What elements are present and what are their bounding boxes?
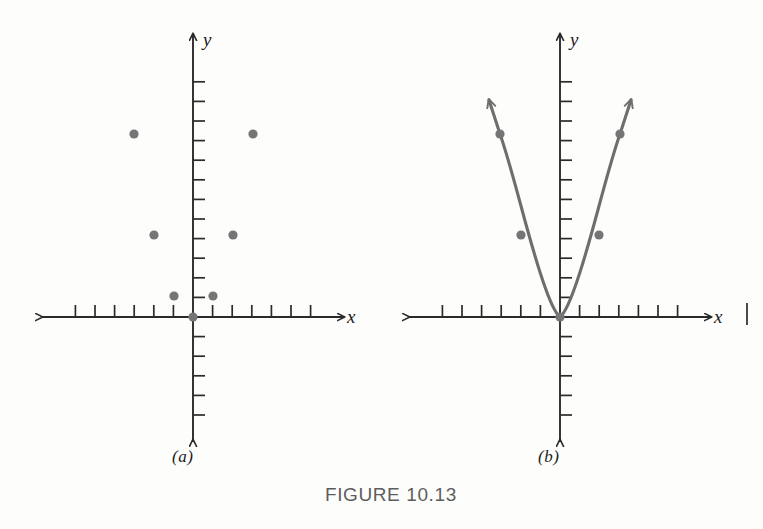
panel-b: x <box>409 29 723 440</box>
panel-b-y-axis: y <box>560 29 579 440</box>
data-point <box>495 129 504 138</box>
y-axis-label-a: y <box>201 29 212 50</box>
panel-a-x-axis: x <box>42 305 356 327</box>
data-point <box>149 230 158 239</box>
panel-a: x <box>42 29 356 440</box>
panel-label-a: (a) <box>172 447 193 467</box>
data-point <box>615 129 624 138</box>
data-point <box>594 230 603 239</box>
panel-a-y-axis: y <box>193 29 212 440</box>
y-axis-label-b: y <box>568 29 579 50</box>
data-point <box>228 230 237 239</box>
x-axis-label-a: x <box>346 306 356 327</box>
data-point <box>129 129 138 138</box>
panel-label-b: (b) <box>538 447 559 467</box>
data-point <box>248 129 257 138</box>
figure-caption: FIGURE 10.13 <box>325 484 457 506</box>
data-point <box>188 312 197 321</box>
parabola-right-arrow <box>620 100 631 134</box>
data-point <box>516 230 525 239</box>
data-point <box>169 291 178 300</box>
y-axis-ticks <box>193 82 205 415</box>
parabola-right-branch <box>560 134 620 317</box>
parabola-left-branch <box>500 134 560 317</box>
y-axis-ticks <box>560 82 572 415</box>
figure-canvas: x <box>0 0 763 529</box>
figure-10-13: x <box>0 0 763 529</box>
parabola-left-arrow <box>489 100 500 134</box>
data-point <box>208 291 217 300</box>
x-axis-label-b: x <box>713 306 723 327</box>
data-point <box>555 312 564 321</box>
page-edge-mark <box>746 303 748 325</box>
